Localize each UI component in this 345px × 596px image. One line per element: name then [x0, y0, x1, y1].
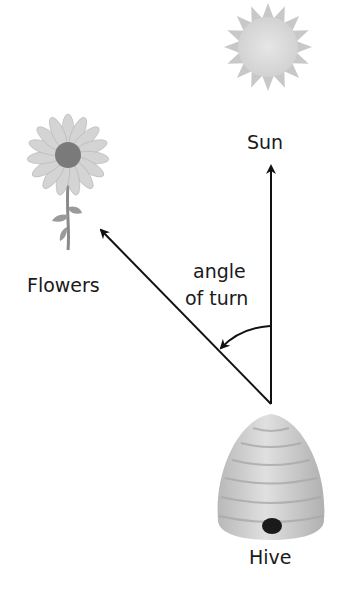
hive-label: Hive [249, 546, 292, 568]
diagram-canvas [0, 0, 345, 596]
beehive-icon [218, 414, 325, 540]
sun-icon [224, 3, 312, 91]
flowers-direction-arrow [101, 230, 271, 404]
angle-label-line1: angle [193, 260, 246, 282]
flower-icon [27, 114, 110, 250]
angle-arc-arrow [221, 326, 270, 348]
sun-label: Sun [247, 131, 283, 153]
angle-label-line2: of turn [185, 287, 248, 309]
flowers-label: Flowers [27, 274, 100, 296]
